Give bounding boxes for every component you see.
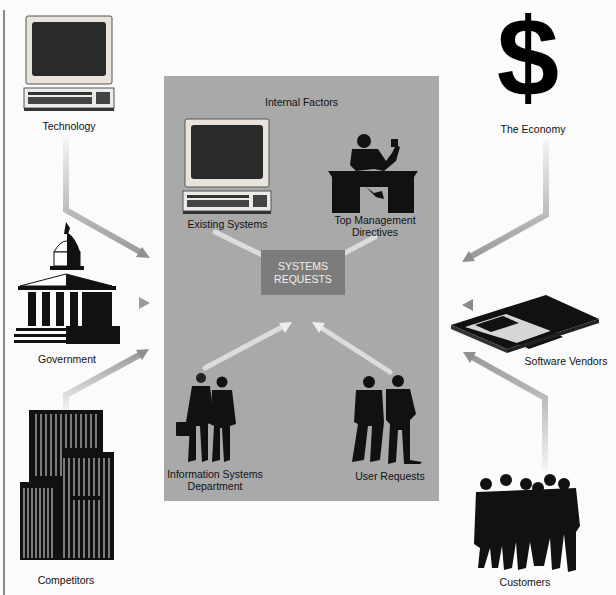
floppy-disk-icon bbox=[451, 295, 601, 353]
existing-systems-label: Existing Systems bbox=[170, 218, 285, 230]
capitol-building-icon bbox=[14, 222, 120, 344]
is-department-label-line1: Information Systems bbox=[160, 468, 270, 480]
systems-requests-line1: SYSTEMS bbox=[261, 260, 345, 273]
software-vendors-label: Software Vendors bbox=[516, 355, 616, 367]
is-department-label: Information Systems Department bbox=[160, 468, 270, 492]
users-icon bbox=[350, 374, 432, 466]
technology-label: Technology bbox=[19, 120, 119, 132]
systems-requests-line2: REQUESTS bbox=[261, 273, 345, 286]
people-pair-icon bbox=[174, 372, 240, 464]
executive-desk-icon bbox=[326, 131, 420, 213]
computer-icon bbox=[24, 14, 114, 112]
computer-icon bbox=[183, 117, 273, 215]
top-management-label-line2: Directives bbox=[320, 226, 430, 238]
top-management-label-line1: Top Management bbox=[320, 214, 430, 226]
economy-label: The Economy bbox=[488, 123, 578, 135]
top-management-label: Top Management Directives bbox=[320, 214, 430, 238]
customers-group-icon bbox=[472, 472, 584, 576]
dollar-sign-icon: $ bbox=[488, 2, 568, 114]
competitors-label: Competitors bbox=[16, 574, 116, 586]
skyscrapers-icon bbox=[20, 410, 114, 560]
systems-requests-box: SYSTEMS REQUESTS bbox=[261, 250, 345, 295]
customers-label: Customers bbox=[480, 576, 570, 588]
is-department-label-line2: Department bbox=[160, 480, 270, 492]
government-label: Government bbox=[14, 353, 120, 365]
user-requests-label: User Requests bbox=[340, 470, 440, 482]
